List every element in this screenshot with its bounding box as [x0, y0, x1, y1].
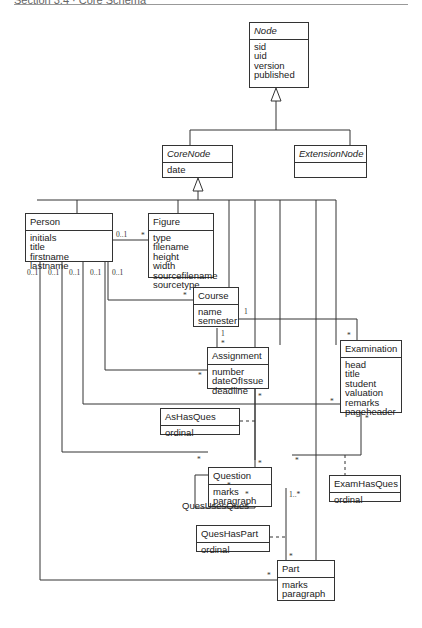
attribute: paragraph: [282, 589, 330, 599]
multiplicity: 0..1: [112, 268, 123, 277]
multiplicity: 0..1: [69, 268, 80, 277]
multiplicity: 1: [221, 329, 225, 338]
multiplicity: *: [258, 459, 262, 468]
generalization-triangle-corenode: [193, 178, 203, 191]
multiplicity: *: [183, 291, 187, 300]
attribute: ordinal: [201, 545, 265, 555]
multiplicity: *: [245, 490, 249, 499]
multiplicity: *: [347, 331, 351, 340]
association-label-quesusesques: QuesUsesQues: [182, 500, 249, 511]
attribute: published: [254, 70, 304, 80]
class-name: Part: [278, 561, 334, 578]
multiplicity: 1..*: [289, 490, 300, 499]
class-ashasques: AsHasQues ordinal: [160, 408, 240, 435]
multiplicity: 1: [244, 307, 248, 316]
attribute: semester: [198, 316, 234, 326]
class-corenode: CoreNode date: [162, 145, 233, 178]
multiplicity: *: [258, 392, 262, 401]
class-name: Course: [194, 288, 238, 305]
multiplicity: *: [198, 371, 202, 380]
multiplicity: 0..1: [27, 268, 38, 277]
multiplicity: *: [330, 397, 334, 406]
class-examhasques: ExamHasQues ordinal: [329, 475, 401, 502]
class-name: Node: [250, 23, 308, 40]
class-name: Figure: [149, 214, 213, 231]
class-name: CoreNode: [163, 146, 232, 163]
multiplicity: *: [267, 571, 271, 580]
class-name: QuesHasPart: [197, 526, 269, 543]
class-extensionnode: ExtensionNode: [294, 145, 367, 178]
multiplicity: *: [289, 552, 293, 561]
multiplicity: 0..1: [48, 268, 59, 277]
class-name: Person: [26, 214, 112, 231]
class-name: ExtensionNode: [295, 146, 366, 163]
multiplicity: *: [365, 414, 369, 423]
attribute: ordinal: [334, 495, 396, 505]
class-part: Part marks paragraph: [277, 560, 335, 601]
attribute: pageheader: [345, 407, 397, 417]
attribute: ordinal: [165, 428, 235, 438]
class-queshaspart: QuesHasPart ordinal: [196, 525, 270, 552]
multiplicity: *: [141, 231, 145, 240]
class-person: Person initials title firstname lastname: [25, 213, 113, 262]
class-assignment: Assignment number dateOfIssue deadline: [207, 347, 269, 389]
multiplicity: 0..1: [90, 268, 101, 277]
generalization-triangle-node: [271, 88, 281, 101]
attribute: deadline: [212, 386, 264, 396]
multiplicity: *: [197, 455, 201, 464]
multiplicity: *: [295, 456, 299, 465]
class-name: Examination: [341, 341, 401, 358]
class-node: Node sid uid version published: [249, 22, 309, 88]
class-name: Assignment: [208, 348, 268, 365]
class-course: Course name semester: [193, 287, 239, 327]
class-name: AsHasQues: [161, 409, 239, 426]
attribute: date: [167, 165, 228, 175]
class-figure: Figure type filename height width source…: [148, 213, 214, 278]
multiplicity: *: [221, 339, 225, 348]
class-examination: Examination head title student valuation…: [340, 340, 402, 413]
class-name: Question: [209, 468, 271, 485]
multiplicity: 0..1: [116, 230, 127, 239]
class-name: ExamHasQues: [330, 476, 400, 493]
multiplicity: *: [227, 481, 231, 490]
